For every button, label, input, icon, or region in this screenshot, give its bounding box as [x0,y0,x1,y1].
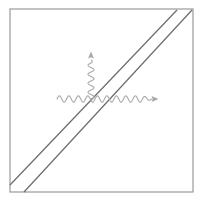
figure-svg [0,0,206,203]
figure-canvas [0,0,206,203]
